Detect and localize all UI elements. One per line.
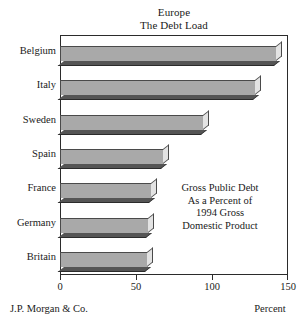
bar-series-layer (60, 35, 288, 275)
bar-bottom-shadow (58, 164, 168, 169)
bar-face (60, 46, 276, 61)
chart-title-main: Europe (60, 6, 288, 19)
bar-face (60, 80, 255, 95)
x-tick-label-50: 50 (116, 281, 156, 292)
bar-end-cap (203, 110, 209, 130)
bar-end-cap (147, 247, 153, 267)
bar-bottom-shadow (58, 233, 153, 238)
annotation-line-1: Gross Public Debt (160, 182, 280, 195)
bar-end-cap (163, 144, 169, 164)
x-tick-150 (287, 275, 288, 280)
bar-france (60, 179, 159, 203)
bar-end-cap (255, 76, 261, 96)
x-tick-label-0: 0 (40, 281, 80, 292)
bar-face (60, 115, 203, 130)
x-tick-label-100: 100 (192, 281, 232, 292)
y-axis-label-belgium: Belgium (0, 45, 56, 57)
bar-face (60, 183, 151, 198)
bar-sweden (60, 111, 211, 135)
x-tick-50 (136, 275, 137, 280)
annotation-line-2: As a Percent of (160, 195, 280, 208)
bar-face (60, 149, 163, 164)
bar-britain (60, 248, 155, 272)
bar-spain (60, 145, 171, 169)
bar-germany (60, 214, 156, 238)
bar-end-cap (276, 41, 282, 61)
y-axis-label-britain: Britain (0, 251, 56, 263)
x-tick-label-150: 150 (268, 281, 305, 292)
x-tick-0 (60, 275, 61, 280)
bar-end-cap (148, 213, 154, 233)
bar-bottom-shadow (58, 267, 151, 272)
chart-annotation: Gross Public DebtAs a Percent of1994 Gro… (160, 182, 280, 232)
x-axis: 050100150 (60, 275, 288, 299)
annotation-line-4: Domestic Product (160, 220, 280, 233)
bar-bottom-shadow (58, 61, 280, 66)
y-axis-label-sweden: Sweden (0, 114, 56, 126)
bar-bottom-shadow (58, 130, 207, 135)
bar-bottom-shadow (58, 198, 156, 203)
bar-end-cap (151, 179, 157, 199)
chart-title: Europe The Debt Load (60, 6, 288, 32)
bar-bottom-shadow (58, 95, 259, 100)
bar-face (60, 252, 147, 267)
bar-face (60, 218, 148, 233)
bar-belgium (60, 42, 284, 66)
source-credit: J.P. Morgan & Co. (10, 303, 88, 314)
y-axis-label-italy: Italy (0, 79, 56, 91)
chart-subtitle: The Debt Load (60, 19, 288, 32)
bar-italy (60, 76, 263, 100)
y-axis-label-france: France (0, 182, 56, 194)
y-axis-label-germany: Germany (0, 217, 56, 229)
x-tick-100 (212, 275, 213, 280)
y-axis-label-spain: Spain (0, 148, 56, 160)
y-axis-category-labels: BelgiumItalySwedenSpainFranceGermanyBrit… (0, 35, 56, 275)
x-axis-title: Percent (240, 303, 300, 314)
annotation-line-3: 1994 Gross (160, 207, 280, 220)
